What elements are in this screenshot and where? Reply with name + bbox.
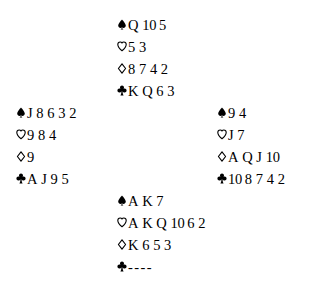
card-rank: 2	[69, 105, 77, 121]
card-rank: Q	[242, 149, 253, 165]
north-spades-row: Q105	[117, 13, 175, 35]
card-rank: 4	[49, 127, 57, 143]
spade-icon	[117, 13, 128, 30]
club-icon	[217, 167, 228, 184]
card-rank: 5	[128, 39, 136, 55]
hand-south: AK7 AKQ1062 K653 ----	[117, 189, 206, 277]
card-rank: 3	[139, 39, 147, 55]
card-rank: 10	[266, 149, 280, 165]
card-rank: 8	[245, 171, 253, 187]
west-hearts-ranks: 984	[27, 124, 57, 146]
east-spades-row: 94	[217, 101, 286, 123]
west-spades-row: J8632	[16, 101, 77, 123]
card-rank: 8	[128, 61, 136, 77]
card-rank: 6	[156, 83, 164, 99]
hand-west: J8632 984 9 AJ95	[16, 101, 77, 189]
card-rank: 7	[156, 193, 164, 209]
diamond-icon	[217, 145, 228, 162]
card-rank: 9	[51, 171, 59, 187]
card-rank: J	[228, 127, 234, 143]
card-rank: 3	[58, 105, 66, 121]
void-marker: ----	[128, 256, 153, 278]
card-rank: 9	[228, 105, 236, 121]
east-spades-ranks: 94	[228, 102, 247, 124]
card-rank: 9	[27, 127, 35, 143]
card-rank: 4	[239, 105, 247, 121]
south-spades-ranks: AK7	[128, 190, 164, 212]
north-clubs-row: KQ63	[117, 79, 175, 101]
spade-icon	[217, 101, 228, 118]
east-clubs-row: 108742	[217, 167, 286, 189]
card-rank: K	[142, 193, 153, 209]
card-rank: K	[128, 237, 139, 253]
card-rank: 7	[139, 61, 147, 77]
hand-east: 94 J7 AQJ10 108742	[217, 101, 286, 189]
west-clubs-ranks: AJ95	[27, 168, 70, 190]
card-rank: 6	[142, 237, 150, 253]
west-diamonds-row: 9	[16, 145, 77, 167]
card-rank: A	[228, 149, 239, 165]
south-hearts-row: AKQ1062	[117, 211, 206, 233]
diamond-icon	[117, 233, 128, 250]
card-rank: 5	[159, 17, 167, 33]
bridge-deal-diagram: Q105 53 8742 KQ63 J8632 984 9 AJ95 94 J7	[0, 0, 311, 289]
south-diamonds-ranks: K653	[128, 234, 172, 256]
card-rank: 2	[278, 171, 286, 187]
east-diamonds-ranks: AQJ10	[228, 146, 280, 168]
north-spades-ranks: Q105	[128, 14, 167, 36]
east-clubs-ranks: 108742	[228, 168, 286, 190]
card-rank: J	[256, 149, 262, 165]
north-hearts-row: 53	[117, 35, 175, 57]
north-diamonds-ranks: 8742	[128, 58, 169, 80]
south-clubs-row: ----	[117, 255, 206, 277]
card-rank: 5	[153, 237, 161, 253]
card-rank: 6	[187, 215, 195, 231]
north-hearts-ranks: 53	[128, 36, 147, 58]
east-hearts-ranks: J7	[228, 124, 245, 146]
south-diamonds-row: K653	[117, 233, 206, 255]
card-rank: 10	[171, 215, 185, 231]
card-rank: 7	[237, 127, 245, 143]
card-rank: 5	[61, 171, 69, 187]
spade-icon	[16, 101, 27, 118]
card-rank: K	[142, 215, 153, 231]
heart-icon	[117, 211, 128, 228]
card-rank: 9	[27, 149, 35, 165]
west-clubs-row: AJ95	[16, 167, 77, 189]
diamond-icon	[117, 57, 128, 74]
heart-icon	[16, 123, 27, 140]
card-rank: 8	[36, 105, 44, 121]
east-diamonds-row: AQJ10	[217, 145, 286, 167]
card-rank: Q	[128, 17, 139, 33]
club-icon	[117, 79, 128, 96]
card-rank: J	[41, 171, 47, 187]
card-rank: Q	[142, 83, 153, 99]
card-rank: 2	[161, 61, 169, 77]
south-clubs-ranks: ----	[128, 256, 153, 278]
north-diamonds-row: 8742	[117, 57, 175, 79]
club-icon	[16, 167, 27, 184]
heart-icon	[117, 35, 128, 52]
west-spades-ranks: J8632	[27, 102, 77, 124]
card-rank: Q	[156, 215, 167, 231]
card-rank: A	[128, 215, 139, 231]
card-rank: 2	[198, 215, 206, 231]
card-rank: A	[128, 193, 139, 209]
west-diamonds-ranks: 9	[27, 146, 35, 168]
east-hearts-row: J7	[217, 123, 286, 145]
west-hearts-row: 984	[16, 123, 77, 145]
club-icon	[117, 255, 128, 272]
card-rank: 6	[47, 105, 55, 121]
card-rank: 3	[164, 237, 172, 253]
south-spades-row: AK7	[117, 189, 206, 211]
spade-icon	[117, 189, 128, 206]
card-rank: 8	[38, 127, 46, 143]
north-clubs-ranks: KQ63	[128, 80, 175, 102]
diamond-icon	[16, 145, 27, 162]
card-rank: A	[27, 171, 38, 187]
card-rank: 10	[142, 17, 156, 33]
card-rank: J	[27, 105, 33, 121]
hand-north: Q105 53 8742 KQ63	[117, 13, 175, 101]
card-rank: 3	[167, 83, 175, 99]
card-rank: 4	[150, 61, 158, 77]
